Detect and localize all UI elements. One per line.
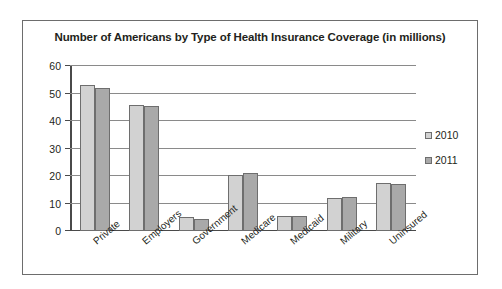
legend-item-2010: 2010: [425, 129, 458, 141]
y-tick-mark-60: [65, 65, 70, 66]
bar-government-2010: [179, 217, 194, 231]
y-tick-label-0: 0: [55, 225, 61, 237]
chart-frame: Number of Americans by Type of Health In…: [22, 20, 478, 275]
chart-legend: 20102011: [425, 129, 458, 179]
y-tick-label-50: 50: [49, 88, 61, 100]
x-label-anchor-private: Private: [91, 238, 92, 239]
bar-employers-2010: [129, 105, 144, 232]
bar-private-2011: [95, 88, 110, 231]
x-label-anchor-medicare: Medicare: [239, 238, 240, 239]
legend-label-2011: 2011: [435, 154, 458, 166]
legend-swatch-2010: [425, 132, 432, 139]
legend-swatch-2011: [425, 157, 432, 164]
bar-private-2010: [80, 85, 95, 231]
legend-item-2011: 2011: [425, 154, 458, 166]
y-tick-mark-20: [65, 175, 70, 176]
x-label-anchor-medicaid: Medicaid: [288, 238, 289, 239]
gridline-30: [70, 148, 416, 149]
y-tick-label-60: 60: [49, 60, 61, 72]
y-tick-mark-50: [65, 93, 70, 94]
x-label-anchor-government: Government: [190, 238, 191, 239]
y-tick-mark-0: [65, 230, 70, 231]
gridline-50: [70, 93, 416, 94]
y-tick-mark-30: [65, 148, 70, 149]
chart-title: Number of Americans by Type of Health In…: [23, 31, 477, 43]
y-tick-mark-40: [65, 120, 70, 121]
gridline-60: [70, 65, 416, 66]
bar-medicaid-2010: [277, 216, 292, 231]
y-axis-line: [70, 66, 72, 231]
bar-employers-2011: [144, 106, 159, 231]
y-tick-label-40: 40: [49, 115, 61, 127]
x-label-anchor-uninsured: Uninsured: [387, 238, 388, 239]
y-tick-mark-10: [65, 203, 70, 204]
x-label-anchor-employers: Employers: [140, 238, 141, 239]
y-tick-label-10: 10: [49, 198, 61, 210]
x-label-anchor-military: Military: [338, 238, 339, 239]
bar-uninsured-2010: [376, 183, 391, 231]
gridline-40: [70, 120, 416, 121]
y-tick-label-30: 30: [49, 143, 61, 155]
y-tick-label-20: 20: [49, 170, 61, 182]
bar-military-2010: [327, 198, 342, 231]
legend-label-2010: 2010: [435, 129, 458, 141]
plot-area: 0102030405060 PrivateEmployersGovernment…: [70, 66, 416, 231]
